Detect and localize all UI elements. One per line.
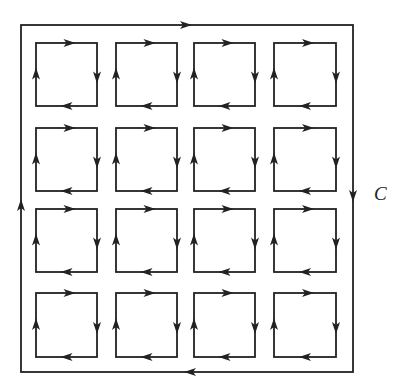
cell-square <box>194 128 255 191</box>
curve-label-c: C <box>374 183 387 205</box>
cell-square <box>36 43 97 106</box>
cell-square <box>116 128 177 191</box>
diagram-canvas <box>0 0 407 392</box>
outer-curve <box>21 25 353 372</box>
cell-square <box>194 43 255 106</box>
cell-square <box>274 43 336 106</box>
cell-square <box>274 209 336 272</box>
cell-square <box>274 293 336 357</box>
cell-square <box>36 128 97 191</box>
cell-square <box>194 209 255 272</box>
cell-square <box>36 293 97 357</box>
cell-square <box>274 128 336 191</box>
cell-square <box>194 293 255 357</box>
cell-square <box>116 43 177 106</box>
cell-square <box>36 209 97 272</box>
cell-square <box>116 293 177 357</box>
cell-square <box>116 209 177 272</box>
